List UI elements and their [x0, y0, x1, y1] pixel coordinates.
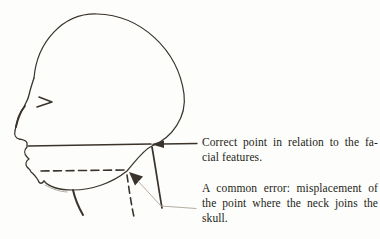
- facial-level-line: [28, 144, 151, 146]
- caption-error-line-3: skull.: [202, 211, 378, 226]
- neck-front-line: [73, 190, 83, 215]
- neck-dashed-line: [127, 175, 134, 217]
- error-leader-line: [138, 181, 196, 209]
- caption-correct-line-2: cial features.: [202, 150, 378, 165]
- caption-error-line-1: A common error: misplacement of: [202, 181, 378, 196]
- caption-error-line-2: the point where the neck joins the: [202, 196, 378, 211]
- neck-back-line: [152, 147, 162, 208]
- correct-point-arrow-line: [162, 144, 197, 145]
- book-figure: Correct point in relation to the fa- cia…: [0, 0, 380, 239]
- eye-mark: [37, 97, 52, 107]
- caption-correct-line-1: Correct point in relation to the fa-: [202, 135, 378, 150]
- correct-point-arrowhead-icon: [151, 140, 164, 148]
- caption-correct-point: Correct point in relation to the fa- cia…: [202, 135, 378, 165]
- face-profile: [15, 78, 44, 183]
- jaw-dashed-line: [41, 170, 126, 171]
- caption-common-error: A common error: misplacement of the poin…: [202, 181, 378, 226]
- skull-outline: [34, 14, 184, 190]
- nose-accent-line: [16, 106, 25, 127]
